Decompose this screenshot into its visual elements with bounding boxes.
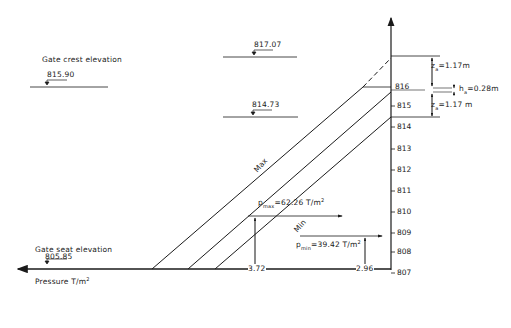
za-bottom-annotation: za=1.17 m bbox=[431, 100, 472, 109]
tick-811: 811 bbox=[397, 186, 411, 195]
pmax-annotation: pmax=62.26 T/m2 bbox=[258, 198, 324, 207]
tick-816: 816 bbox=[395, 82, 409, 91]
tick-807: 807 bbox=[397, 268, 411, 277]
max-pressure-line-dashed bbox=[363, 58, 391, 87]
tick-813: 813 bbox=[397, 144, 411, 153]
gate-crest-label: Gate crest elevation bbox=[42, 55, 122, 64]
tick-815: 815 bbox=[397, 101, 411, 110]
tick-812: 812 bbox=[397, 165, 411, 174]
pmin-annotation: pmin=39.42 T/m2 bbox=[296, 240, 361, 249]
tick-810: 810 bbox=[397, 207, 411, 216]
tick-809: 809 bbox=[397, 228, 411, 237]
za-top-annotation: za=1.17m bbox=[431, 61, 470, 70]
dim-right: 2.96 bbox=[356, 264, 374, 273]
upper-water-value: 817.07 bbox=[254, 40, 281, 49]
lower-water-value: 814.73 bbox=[252, 100, 279, 109]
gate-crest-value: 815.90 bbox=[47, 70, 74, 79]
tick-808: 808 bbox=[397, 247, 411, 256]
pressure-axis-label: Pressure T/m2 bbox=[35, 277, 90, 286]
ha-annotation: ha=0.28m bbox=[459, 84, 499, 93]
gate-seat-value: 805.85 bbox=[45, 252, 72, 261]
dim-left: 3.72 bbox=[248, 264, 266, 273]
tick-814: 814 bbox=[397, 122, 411, 131]
